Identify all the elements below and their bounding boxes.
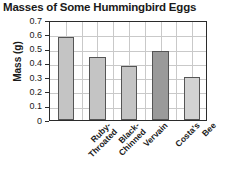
bar — [152, 51, 168, 120]
y-tick-label: 0.1 — [18, 102, 42, 111]
bar — [121, 66, 137, 120]
x-axis-tick-labels: Ruby-ThroatedBlack-ChinnedVervainCosta's… — [49, 121, 207, 174]
bar — [89, 57, 105, 120]
gridline-vertical — [145, 22, 146, 120]
y-axis-tick-labels: 0.70.60.50.40.30.20.10 — [18, 0, 42, 174]
x-tick-label: Vervain — [142, 121, 170, 149]
y-tick-label: 0.3 — [18, 74, 42, 83]
x-tick-label-line: Costa's — [173, 120, 202, 149]
y-tick-label: 0.5 — [18, 45, 42, 54]
y-tick-label: 0.7 — [18, 17, 42, 26]
gridline-vertical — [176, 22, 177, 120]
x-tick-label: Bee — [201, 121, 218, 138]
bar — [58, 37, 74, 120]
bar-chart: Masses of Some Hummingbird Eggs Mass (g)… — [0, 0, 229, 174]
gridline-vertical — [113, 22, 114, 120]
x-tick-label: Costa's — [173, 121, 201, 149]
x-tick-label-line: Bee — [200, 120, 218, 138]
gridline-vertical — [82, 22, 83, 120]
y-tick-label: 0.2 — [18, 88, 42, 97]
y-tick-label: 0 — [18, 117, 42, 126]
bar — [184, 77, 200, 120]
plot-area — [49, 21, 207, 121]
y-tick-label: 0.6 — [18, 31, 42, 40]
y-tick-label: 0.4 — [18, 59, 42, 68]
x-tick-label: Ruby-Throated — [80, 121, 118, 159]
